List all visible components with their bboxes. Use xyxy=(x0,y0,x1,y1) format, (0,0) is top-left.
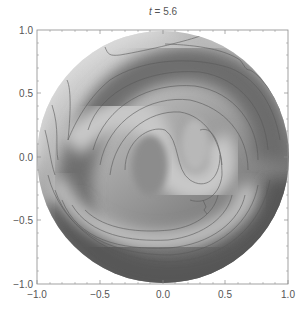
y-tick-label: 0.0 xyxy=(19,152,33,163)
x-tick-label: −0.5 xyxy=(90,289,110,300)
y-axis-labels: 1.0 0.5 0.0 −0.5 −1.0 xyxy=(13,25,33,290)
x-tick-label: −1.0 xyxy=(27,289,47,300)
x-tick-label: 0.5 xyxy=(218,289,232,300)
chart-title: t = 5.6 xyxy=(149,6,178,17)
density-disk xyxy=(20,20,300,283)
x-tick-label: 1.0 xyxy=(281,289,295,300)
y-tick-label: 0.5 xyxy=(19,88,33,99)
y-tick-label: 1.0 xyxy=(19,25,33,36)
x-tick-label: 0.0 xyxy=(156,289,170,300)
y-tick-label: −0.5 xyxy=(13,215,33,226)
x-axis-labels: −1.0 −0.5 0.0 0.5 1.0 xyxy=(27,289,295,300)
chart-plot: t = 5.6 xyxy=(0,0,307,314)
